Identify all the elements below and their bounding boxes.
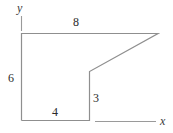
x-axis-label: x [160,115,165,127]
y-axis-label: y [17,2,22,14]
geometry-figure: y x 8 6 3 4 [0,0,173,133]
dimension-label-bottom: 4 [52,106,58,118]
dimension-label-left: 6 [8,72,14,84]
polygon-outline [22,34,159,121]
dimension-label-inner: 3 [93,92,99,104]
figure-canvas [0,0,173,133]
dimension-label-top: 8 [73,16,79,28]
